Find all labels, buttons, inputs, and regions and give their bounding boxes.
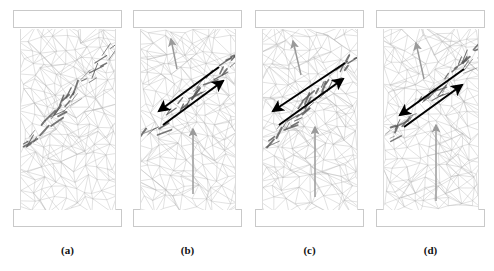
- panel-label-a: (a): [13, 244, 122, 256]
- crack-propagation-arrow: [416, 43, 424, 79]
- specimen-mesh: [20, 29, 116, 210]
- panel-c: (c): [255, 0, 364, 271]
- figure-root: (a)(b)(c)(d): [0, 0, 494, 271]
- specimen-mesh: [140, 29, 236, 210]
- specimen-mesh: [262, 29, 358, 210]
- panel-label-d: (d): [376, 244, 485, 256]
- lattice-network: [263, 29, 358, 210]
- panel-b: (b): [133, 0, 242, 271]
- lattice-network: [21, 29, 116, 210]
- panel-a: (a): [13, 0, 122, 271]
- bottom-platen: [133, 209, 242, 227]
- panel-label-c: (c): [255, 244, 364, 256]
- top-platen: [13, 10, 122, 28]
- bottom-platen: [255, 209, 364, 227]
- panel-d: (d): [376, 0, 485, 271]
- top-platen: [376, 10, 485, 28]
- bottom-platen: [376, 209, 485, 227]
- crack-propagation-arrow: [171, 39, 177, 69]
- bottom-platen: [13, 209, 122, 227]
- top-platen: [133, 10, 242, 28]
- top-platen: [255, 10, 364, 28]
- panel-label-b: (b): [133, 244, 242, 256]
- lattice-network: [141, 29, 236, 210]
- specimen-mesh: [383, 29, 479, 210]
